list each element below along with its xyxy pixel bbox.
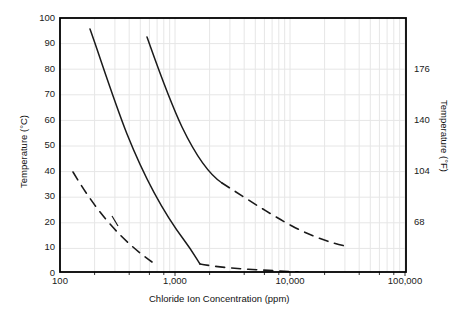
plot-background [60,18,406,272]
crevice-corrosion-chart: 100 90 80 70 60 50 40 30 20 10 0 176 140… [0,0,462,319]
plot-area [0,0,462,319]
